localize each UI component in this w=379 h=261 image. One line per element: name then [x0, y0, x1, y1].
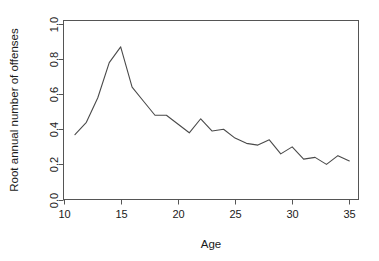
y-tick-label: 0.4 — [48, 122, 60, 137]
x-tick-label: 25 — [229, 208, 241, 220]
x-tick-label: 30 — [286, 208, 298, 220]
y-axis-tick-labels: 0.00.20.40.60.81.0 — [48, 17, 60, 208]
y-tick-label: 1.0 — [48, 17, 60, 32]
plot-frame — [64, 21, 359, 200]
y-tick-label: 0.2 — [48, 157, 60, 172]
x-tick-label: 10 — [58, 208, 70, 220]
line-chart: 101520253035 0.00.20.40.60.81.0 Age Root… — [0, 0, 379, 261]
y-axis-title: Root annual number of offenses — [8, 28, 20, 192]
x-axis-title: Age — [201, 238, 221, 250]
x-axis-tick-labels: 101520253035 — [58, 208, 355, 220]
chart-figure: 101520253035 0.00.20.40.60.81.0 Age Root… — [0, 0, 379, 261]
y-tick-label: 0.8 — [48, 52, 60, 67]
data-series-line — [75, 47, 349, 165]
x-tick-label: 35 — [343, 208, 355, 220]
y-tick-label: 0.0 — [48, 193, 60, 208]
y-tick-label: 0.6 — [48, 87, 60, 102]
x-axis-ticks — [65, 200, 350, 205]
x-tick-label: 15 — [115, 208, 127, 220]
y-axis-ticks — [59, 25, 64, 201]
x-tick-label: 20 — [172, 208, 184, 220]
